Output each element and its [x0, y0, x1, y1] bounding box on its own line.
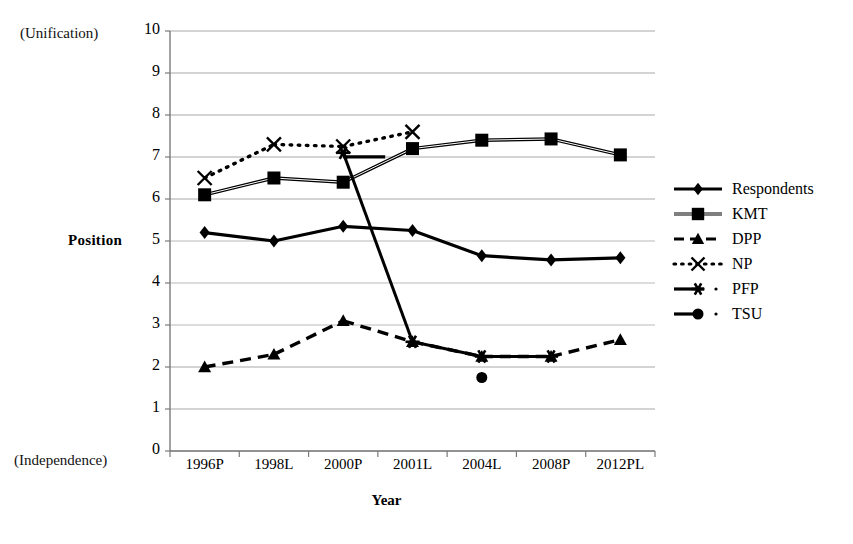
- x-marker-icon: [692, 257, 705, 270]
- y-tick-label: 6: [120, 188, 160, 206]
- legend-item-label: PFP: [724, 280, 759, 298]
- series-line-segment: [413, 231, 482, 256]
- series-line-segment: [551, 258, 620, 260]
- diamond-marker-icon: [407, 224, 417, 237]
- square-marker-icon: [406, 142, 419, 155]
- y-tick-label: 9: [120, 62, 160, 80]
- series-line-segment: [343, 321, 412, 342]
- series-line-segment: [551, 340, 620, 357]
- legend-item-respondents[interactable]: Respondents: [672, 176, 847, 201]
- triangle-marker-icon: [672, 228, 724, 250]
- chart-legend: RespondentsKMTDPPNPPFPTSU: [672, 176, 847, 326]
- circle-marker-icon: [693, 308, 704, 319]
- square-marker-icon: [614, 148, 627, 161]
- diamond-marker-icon: [269, 235, 279, 248]
- legend-item-tsu[interactable]: TSU: [672, 301, 847, 326]
- y-tick-label: 2: [120, 356, 160, 374]
- x-marker-icon: [198, 171, 212, 185]
- y-tick-label: 5: [120, 230, 160, 248]
- square-marker-icon: [672, 203, 724, 225]
- x-tick-label: 2000P: [303, 456, 383, 473]
- series-line-segment: [274, 226, 343, 241]
- y-tick-label: 1: [120, 398, 160, 416]
- triangle-marker-icon: [614, 333, 627, 345]
- series-line-segment: [343, 153, 412, 342]
- legend-trailing-dot: [714, 312, 717, 315]
- diamond-marker-icon: [693, 182, 703, 194]
- legend-trailing-dot: [714, 287, 717, 290]
- x-tick-label: 2004L: [442, 456, 522, 473]
- legend-item-pfp[interactable]: PFP: [672, 276, 847, 301]
- legend-item-label: KMT: [724, 205, 768, 223]
- square-marker-icon: [545, 132, 558, 145]
- square-marker-icon: [267, 172, 280, 185]
- series-line-segment: [274, 321, 343, 355]
- series-line-segment: [205, 354, 274, 367]
- y-tick-label: 4: [120, 272, 160, 290]
- y-tick-label: 10: [120, 20, 160, 38]
- series-line-segment: [482, 256, 551, 260]
- legend-item-label: NP: [724, 255, 752, 273]
- triangle-marker-icon: [337, 314, 350, 326]
- diamond-marker-icon: [338, 220, 348, 233]
- x-tick-label: 2008P: [511, 456, 591, 473]
- series-line-highlight: [551, 139, 620, 155]
- star-marker-icon: [692, 283, 705, 294]
- circle-marker-icon: [672, 303, 724, 325]
- legend-item-label: Respondents: [724, 180, 814, 198]
- diamond-marker-icon: [477, 249, 487, 262]
- x-tick-label: 2012PL: [580, 456, 660, 473]
- diamond-marker-icon: [546, 253, 556, 266]
- square-marker-icon: [337, 176, 350, 189]
- circle-marker-icon: [476, 372, 487, 383]
- diamond-marker-icon: [200, 226, 210, 239]
- y-tick-label: 0: [120, 440, 160, 458]
- square-marker-icon: [475, 134, 488, 147]
- series-line-segment: [205, 233, 274, 241]
- x-tick-label: 2001L: [373, 456, 453, 473]
- square-marker-icon: [198, 188, 211, 201]
- legend-item-dpp[interactable]: DPP: [672, 226, 847, 251]
- x-marker-icon: [672, 253, 724, 275]
- series-line-highlight: [205, 178, 274, 195]
- diamond-marker-icon: [615, 251, 625, 264]
- star-marker-icon: [672, 278, 724, 300]
- legend-item-np[interactable]: NP: [672, 251, 847, 276]
- chart-figure: (Unification) (Independence) Position Ye…: [0, 0, 853, 544]
- series-line-segment: [343, 226, 412, 230]
- legend-item-kmt[interactable]: KMT: [672, 201, 847, 226]
- x-tick-label: 1998L: [234, 456, 314, 473]
- legend-item-label: TSU: [724, 305, 762, 323]
- series-line-segment: [274, 144, 343, 146]
- y-tick-label: 7: [120, 146, 160, 164]
- x-tick-label: 1996P: [165, 456, 245, 473]
- series-line-highlight: [413, 140, 482, 148]
- y-tick-label: 3: [120, 314, 160, 332]
- y-tick-label: 8: [120, 104, 160, 122]
- series-line-segment: [343, 132, 412, 147]
- legend-item-label: DPP: [724, 230, 761, 248]
- x-marker-icon: [267, 137, 281, 151]
- series-line-segment: [413, 342, 482, 357]
- diamond-marker-icon: [672, 178, 724, 200]
- series-line-segment: [205, 144, 274, 178]
- square-marker-icon: [692, 207, 704, 219]
